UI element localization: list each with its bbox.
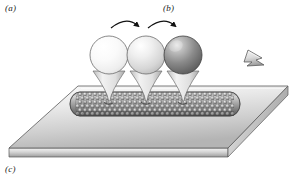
panel-label-a: (a) (5, 3, 16, 13)
translation-arrow (244, 50, 264, 66)
rotation-arrow-1 (111, 21, 137, 28)
panel-label-c: (c) (5, 164, 16, 174)
panel-label-b: (b) (163, 3, 174, 13)
figure-container: (a) (b) (c) (0, 0, 299, 179)
sphere-group (90, 36, 202, 74)
sphere-stage-1 (90, 36, 128, 74)
rotation-arrow-group (111, 21, 174, 28)
molecular-rolling-diagram (0, 0, 299, 179)
translation-arrow-body (244, 50, 264, 66)
nanotube-lattice (76, 92, 235, 117)
sphere-stage-2 (127, 36, 165, 74)
stem-group (93, 71, 199, 104)
carbon-nanotube (70, 92, 240, 117)
sphere-stage-3 (164, 36, 202, 74)
rotation-arrow-2 (148, 21, 174, 28)
slab-front-edge (9, 148, 228, 157)
